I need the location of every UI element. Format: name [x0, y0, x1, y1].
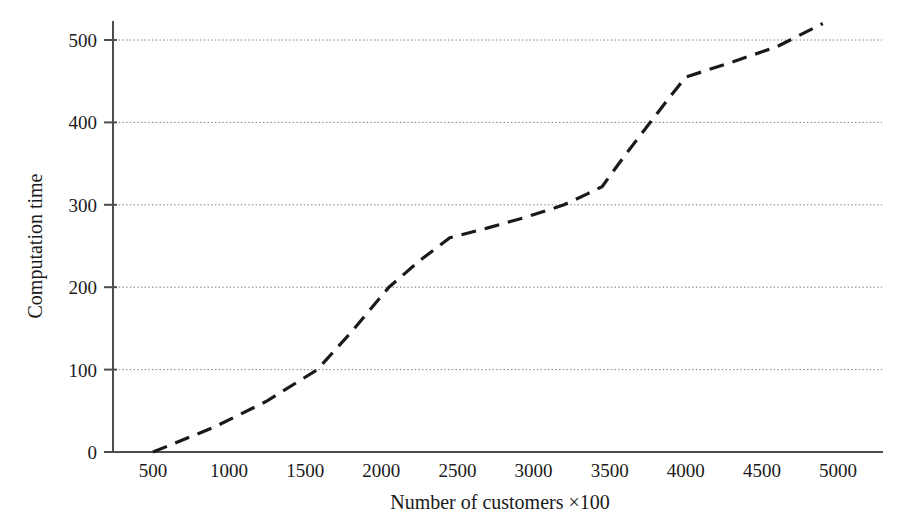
y-tick-label: 300 — [69, 195, 98, 216]
x-tick-label: 3500 — [591, 460, 629, 481]
x-tick-label: 4500 — [743, 460, 781, 481]
x-tick-label: 1500 — [286, 460, 324, 481]
y-tick-label: 500 — [69, 30, 98, 51]
y-tick-label: 200 — [69, 277, 98, 298]
y-tick-label: 100 — [69, 360, 98, 381]
chart-figure: 0100200300400500 50010001500200025003000… — [0, 0, 899, 529]
y-tick-label: 0 — [88, 442, 98, 463]
x-axis-title: Number of customers ×100 — [390, 491, 610, 513]
x-tick-label: 2500 — [438, 460, 476, 481]
y-axis-title: Computation time — [24, 173, 47, 318]
y-tick-label: 400 — [69, 112, 98, 133]
x-tick-label: 2000 — [362, 460, 400, 481]
x-tick-label: 500 — [139, 460, 168, 481]
x-tick-label: 3000 — [515, 460, 553, 481]
x-tick-label: 5000 — [819, 460, 857, 481]
chart-canvas: 0100200300400500 50010001500200025003000… — [0, 0, 899, 529]
chart-background — [0, 0, 899, 529]
x-tick-label: 4000 — [667, 460, 705, 481]
x-tick-label: 1000 — [210, 460, 248, 481]
